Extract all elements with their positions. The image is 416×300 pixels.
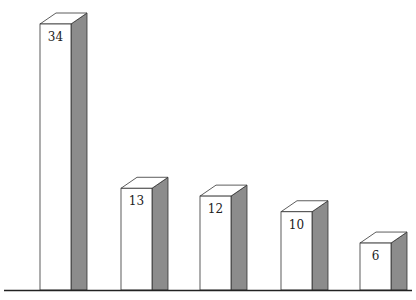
bar-value-label: 13 (121, 194, 152, 208)
bar-1 (40, 13, 87, 290)
bar-value-label: 6 (360, 249, 391, 263)
bar-value-label: 10 (281, 218, 312, 232)
bar-4 (281, 201, 328, 290)
bar-value-label: 34 (40, 30, 71, 44)
bar-3 (200, 185, 247, 290)
bar-value-label: 12 (200, 202, 231, 216)
bar-chart (0, 0, 416, 300)
